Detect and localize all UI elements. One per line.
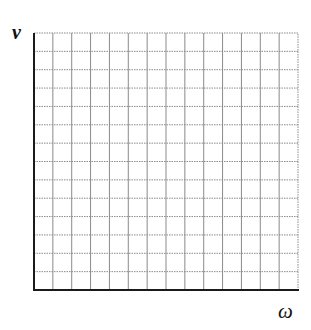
- y-axis-label: v: [12, 22, 21, 42]
- x-axis-label: ω: [278, 301, 293, 322]
- coordinate-grid: [0, 0, 311, 330]
- grid-diagram: v ω: [0, 0, 311, 330]
